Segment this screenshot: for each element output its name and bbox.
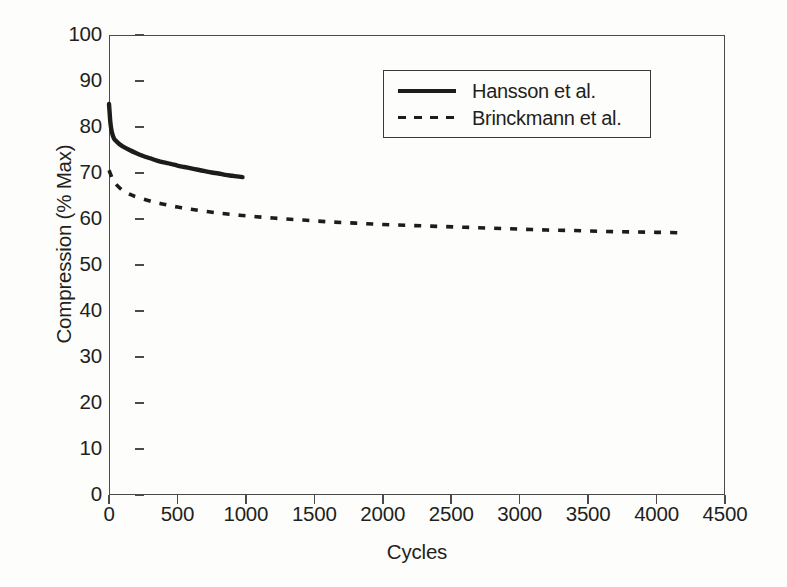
x-tick-label: 4500 [680,503,770,525]
chart-figure: 0102030405060708090100 05001000150020002… [0,0,787,587]
chart-legend: Hansson et al. Brinckmann et al. [383,70,651,138]
legend-label-hansson: Hansson et al. [472,80,596,102]
x-tick-mark [656,495,658,504]
x-tick-mark [724,495,726,504]
x-axis-title: Cycles [109,540,725,564]
legend-item-brinckmann: Brinckmann et al. [384,104,650,131]
legend-label-brinckmann: Brinckmann et al. [472,107,621,129]
legend-swatch-dashed-line-icon [398,111,456,125]
x-tick-mark [177,495,179,504]
x-tick-mark [519,495,521,504]
y-axis-title-wrapper: Compression (% Max) [44,14,84,474]
x-tick-mark [450,495,452,504]
x-tick-mark [382,495,384,504]
legend-item-hansson: Hansson et al. [384,77,650,104]
x-tick-mark [314,495,316,504]
legend-swatch-solid-line-icon [398,84,456,98]
x-tick-mark [587,495,589,504]
x-tick-mark [108,495,110,504]
x-tick-mark [245,495,247,504]
y-axis-title: Compression (% Max) [52,145,76,344]
